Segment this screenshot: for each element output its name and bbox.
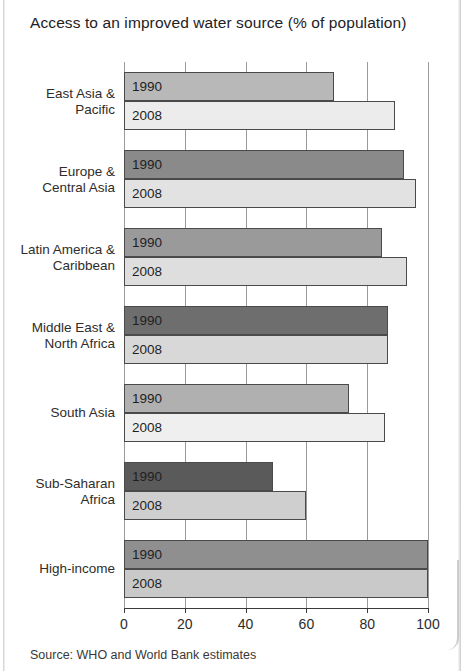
bar-series-label: 2008 [125,186,162,201]
bar-group: Europe & Central Asia19902008 [124,150,428,208]
bar-1990[interactable]: 1990 [124,306,388,335]
gridline-100 [428,62,429,608]
bar-2008[interactable]: 2008 [124,491,306,520]
x-axis-tick-60 [306,608,307,613]
bar-series-label: 2008 [125,108,162,123]
bar-series-label: 1990 [125,79,162,94]
bar-1990[interactable]: 1990 [124,384,349,413]
bar-1990[interactable]: 1990 [124,72,334,101]
page-edge-right-decoration [458,0,461,671]
bar-series-label: 2008 [125,420,162,435]
bar-series-label: 1990 [125,235,162,250]
bar-series-label: 2008 [125,576,162,591]
bar-group: High-income19902008 [124,540,428,598]
bar-group: Sub-Saharan Africa19902008 [124,462,428,520]
category-label: High-income [0,561,115,577]
bar-1990[interactable]: 1990 [124,540,428,569]
x-axis-tick-label-0: 0 [120,616,128,632]
x-axis-tick-label-80: 80 [359,616,375,632]
x-axis-tick-label-100: 100 [416,616,439,632]
category-label: South Asia [0,405,115,421]
bar-2008[interactable]: 2008 [124,335,388,364]
x-axis-tick-label-20: 20 [177,616,193,632]
bar-series-label: 1990 [125,391,162,406]
bar-group: Latin America & Caribbean19902008 [124,228,428,286]
x-axis-tick-100 [428,608,429,613]
x-axis-tick-80 [367,608,368,613]
bar-group: Middle East & North Africa19902008 [124,306,428,364]
plot-area: East Asia & Pacific19902008Europe & Cent… [124,62,428,608]
bar-2008[interactable]: 2008 [124,413,385,442]
category-label: Europe & Central Asia [0,164,115,195]
category-label: Sub-Saharan Africa [0,476,115,507]
x-axis-tick-label-60: 60 [299,616,315,632]
bar-2008[interactable]: 2008 [124,569,428,598]
x-axis-line [124,608,429,609]
category-label: Latin America & Caribbean [0,242,115,273]
bar-series-label: 2008 [125,342,162,357]
bar-group: East Asia & Pacific19902008 [124,72,428,130]
category-label: Middle East & North Africa [0,320,115,351]
chart-figure: Access to an improved water source (% of… [0,0,463,671]
chart-title: Access to an improved water source (% of… [30,14,407,32]
x-axis-tick-0 [124,608,125,613]
bar-series-label: 1990 [125,313,162,328]
bar-series-label: 1990 [125,547,162,562]
x-axis-tick-20 [185,608,186,613]
category-label: East Asia & Pacific [0,86,115,117]
bar-2008[interactable]: 2008 [124,179,416,208]
x-axis-tick-label-40: 40 [238,616,254,632]
bar-group: South Asia19902008 [124,384,428,442]
bar-series-label: 2008 [125,498,162,513]
bar-2008[interactable]: 2008 [124,257,407,286]
chart-source-note: Source: WHO and World Bank estimates [30,648,256,662]
bar-2008[interactable]: 2008 [124,101,395,130]
bar-1990[interactable]: 1990 [124,462,273,491]
bar-series-label: 2008 [125,264,162,279]
x-axis-tick-40 [246,608,247,613]
bar-1990[interactable]: 1990 [124,150,404,179]
bar-series-label: 1990 [125,157,162,172]
bar-series-label: 1990 [125,469,162,484]
bar-1990[interactable]: 1990 [124,228,382,257]
